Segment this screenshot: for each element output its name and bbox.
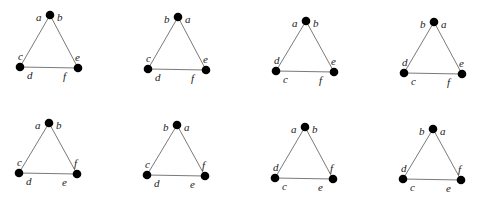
label-bl-below: c	[411, 75, 416, 87]
label-top-left: a	[35, 119, 41, 131]
node-bottom-right	[74, 64, 83, 73]
label-bl-below: c	[410, 181, 415, 193]
triangle-graph-1: abcdef	[16, 11, 83, 82]
node-bottom-left	[16, 63, 25, 72]
node-top	[174, 13, 183, 22]
node-bottom-left	[15, 169, 24, 178]
edge-left	[403, 129, 433, 179]
label-top-left: b	[420, 18, 426, 30]
label-bl-above: d	[274, 54, 280, 66]
label-bl-below: d	[26, 175, 32, 187]
node-bottom-right	[457, 176, 466, 185]
edge-right	[305, 127, 333, 179]
label-top-left: b	[164, 13, 170, 25]
triangle-graph-8: badcfe	[399, 125, 466, 194]
node-top	[173, 121, 182, 130]
label-br-below: f	[63, 70, 68, 82]
edge-bottom	[275, 178, 333, 179]
node-bottom-right	[201, 172, 210, 181]
label-top-right: a	[184, 121, 190, 133]
label-top-left: a	[291, 123, 297, 135]
edge-right	[434, 22, 462, 74]
label-br-below: e	[446, 182, 451, 194]
edge-left	[276, 21, 306, 71]
label-bl-above: c	[17, 156, 22, 168]
label-br-above: f	[330, 162, 335, 174]
edge-right	[50, 15, 78, 68]
label-br-below: e	[318, 181, 323, 193]
edge-right	[433, 129, 461, 180]
label-bl-above: d	[402, 56, 408, 68]
edge-right	[306, 21, 334, 72]
triangle-graph-3: abdcef	[272, 17, 339, 86]
label-bl-above: c	[18, 50, 23, 62]
node-bottom-left	[400, 69, 409, 78]
edge-bottom	[148, 69, 206, 70]
label-br-above: f	[458, 163, 463, 175]
label-br-below: f	[191, 72, 196, 84]
label-br-above: e	[331, 55, 336, 67]
label-top-right: a	[185, 13, 191, 25]
edge-right	[178, 17, 206, 70]
triangle-graph-7: abdcfe	[271, 123, 338, 193]
label-bl-above: d	[401, 162, 407, 174]
edge-bottom	[404, 73, 462, 74]
edge-left	[20, 15, 50, 67]
triangle-graph-5: abcdfe	[15, 119, 82, 188]
node-bottom-left	[144, 65, 153, 74]
triangle-graph-2: bacdef	[144, 13, 211, 84]
label-bl-below: d	[155, 71, 161, 83]
triangle-diagram-grid: abcdefbacdefabdcefbadcefabcdfebacdfeabdc…	[0, 0, 484, 197]
edge-left	[148, 17, 178, 69]
label-top-left: b	[419, 125, 425, 137]
node-top	[301, 123, 310, 132]
node-bottom-right	[202, 66, 211, 75]
label-top-right: a	[441, 18, 447, 30]
label-br-below: f	[319, 74, 324, 86]
label-br-below: e	[62, 176, 67, 188]
label-br-above: e	[459, 57, 464, 69]
node-bottom-left	[399, 175, 408, 184]
node-bottom-right	[329, 175, 338, 184]
label-top-left: a	[292, 17, 298, 29]
edge-left	[147, 125, 177, 175]
node-bottom-left	[271, 174, 280, 183]
label-bl-below: c	[282, 180, 287, 192]
label-top-left: a	[36, 11, 42, 23]
label-bl-below: c	[283, 73, 288, 85]
label-bl-above: d	[273, 161, 279, 173]
node-top	[46, 11, 55, 20]
label-bl-below: d	[154, 177, 160, 189]
label-br-below: f	[447, 76, 452, 88]
label-br-above: f	[74, 157, 79, 169]
label-bl-above: c	[146, 52, 151, 64]
edge-bottom	[20, 67, 78, 68]
edge-left	[404, 22, 434, 73]
label-top-right: b	[313, 17, 319, 29]
label-br-above: e	[203, 53, 208, 65]
edge-left	[19, 123, 49, 173]
edge-bottom	[147, 175, 205, 176]
node-top	[430, 18, 439, 27]
node-top	[302, 17, 311, 26]
label-bl-below: d	[27, 69, 33, 81]
label-top-right: b	[56, 119, 62, 131]
label-br-below: e	[190, 178, 195, 190]
node-bottom-right	[458, 70, 467, 79]
label-top-right: b	[312, 123, 318, 135]
node-bottom-left	[143, 171, 152, 180]
node-top	[45, 119, 54, 128]
triangle-graph-4: badcef	[400, 18, 467, 88]
label-top-right: a	[440, 125, 446, 137]
label-bl-above: c	[145, 158, 150, 170]
label-top-left: b	[163, 121, 169, 133]
node-bottom-left	[272, 67, 281, 76]
edge-bottom	[403, 179, 461, 180]
label-top-right: b	[57, 11, 63, 23]
label-br-above: f	[202, 159, 207, 171]
edge-bottom	[276, 71, 334, 72]
label-br-above: e	[75, 51, 80, 63]
edge-left	[275, 127, 305, 178]
node-top	[429, 125, 438, 134]
node-bottom-right	[330, 68, 339, 77]
